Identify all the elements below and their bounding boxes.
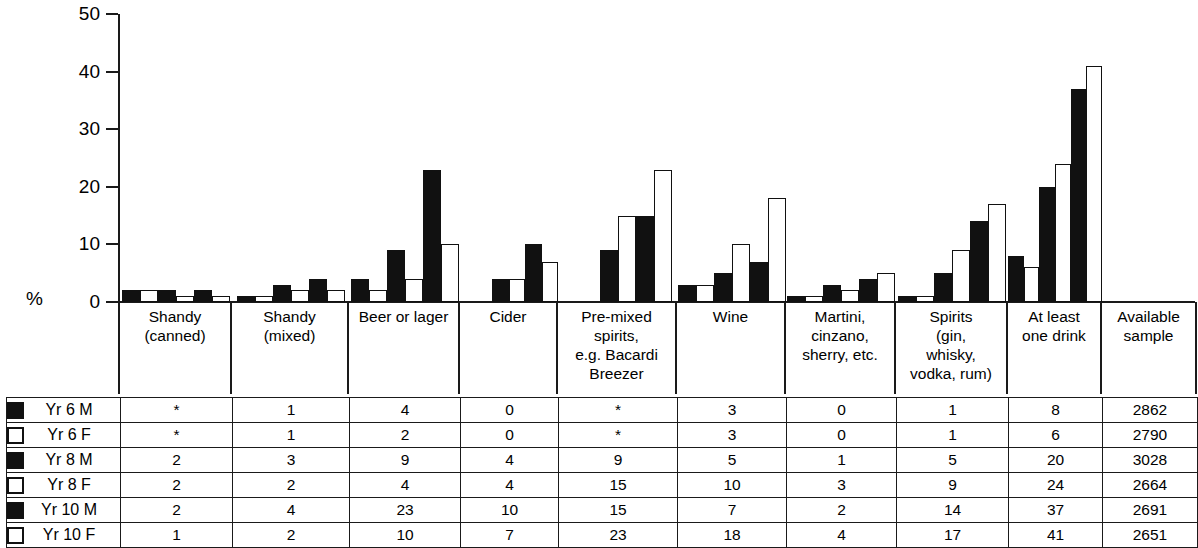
table-cell: 4 <box>787 523 897 548</box>
bar <box>387 250 405 302</box>
table-cell: 9 <box>559 448 678 473</box>
table-cell: 2 <box>121 498 233 523</box>
bar <box>970 221 988 302</box>
bar <box>696 285 714 302</box>
legend-series-label: Yr 8 F <box>24 474 120 496</box>
table-cell: 23 <box>559 523 678 548</box>
legend-swatch-icon <box>7 402 24 419</box>
bar <box>600 250 618 302</box>
bar <box>122 290 140 302</box>
bar <box>492 279 508 302</box>
category-label-cell: Martini,cinzano,sherry, etc. <box>786 302 896 394</box>
category-label-line: Beer or lager <box>359 307 449 326</box>
table-row: Yr 6 M*140*30182862 <box>7 398 1198 423</box>
table-cell: 0 <box>461 398 559 423</box>
table-cell: 1 <box>897 398 1009 423</box>
table-cell: 8 <box>1009 398 1103 423</box>
bar <box>351 279 369 302</box>
table-cell: 2 <box>233 473 350 498</box>
bar-group <box>786 14 896 302</box>
table-row: Yr 8 M23949515203028 <box>7 448 1198 473</box>
bar <box>369 290 387 302</box>
category-label-cell: Availablesample <box>1102 302 1197 394</box>
bar <box>618 216 636 302</box>
table-row: Yr 10 F121072318417412651 <box>7 523 1198 548</box>
table-cell: 10 <box>350 523 461 548</box>
table-cell: 5 <box>678 448 787 473</box>
table-cell: 9 <box>897 473 1009 498</box>
legend-series-label: Yr 6 M <box>24 399 120 421</box>
table-cell: 4 <box>233 498 350 523</box>
table-cell: 2 <box>233 523 350 548</box>
bar <box>1086 66 1102 302</box>
table-cell: 3 <box>787 473 897 498</box>
category-label-line: one drink <box>1022 326 1086 345</box>
data-table: Yr 6 M*140*30182862Yr 6 F*120*30162790Yr… <box>6 397 1198 548</box>
legend-swatch-icon <box>7 527 24 544</box>
category-label-line: Breezer <box>589 364 643 383</box>
category-label-line: Martini, <box>815 307 866 326</box>
bar-groups <box>120 14 1195 302</box>
bar <box>441 244 459 302</box>
legend-swatch-icon <box>7 502 24 519</box>
table-cell: * <box>121 423 233 448</box>
table-cell: 1 <box>897 423 1009 448</box>
category-label-cell: Shandy(canned) <box>120 302 232 394</box>
table-cell: 2 <box>121 448 233 473</box>
bar <box>1039 187 1055 302</box>
bar <box>291 290 309 302</box>
bar <box>158 290 176 302</box>
table-cell: 1 <box>233 423 350 448</box>
bar <box>988 204 1006 302</box>
category-label-line: spirits, <box>594 326 639 345</box>
table-cell: 17 <box>897 523 1009 548</box>
bar <box>877 273 895 302</box>
bar-group <box>896 14 1008 302</box>
category-label-cell: Wine <box>677 302 786 394</box>
table-cell: 14 <box>897 498 1009 523</box>
legend-cell: Yr 8 M <box>7 448 121 473</box>
category-label-cell: Beer or lager <box>349 302 460 394</box>
category-label-line: Spirits <box>929 307 972 326</box>
table-cell: 10 <box>461 498 559 523</box>
data-table-wrap: Yr 6 M*140*30182862Yr 6 F*120*30162790Yr… <box>6 397 1192 542</box>
table-cell: 41 <box>1009 523 1103 548</box>
bar <box>327 290 345 302</box>
legend-series-label: Yr 10 F <box>24 524 120 546</box>
table-cell: 6 <box>1009 423 1103 448</box>
category-label-line: cinzano, <box>811 326 869 345</box>
legend-cell: Yr 8 F <box>7 473 121 498</box>
category-label-cell: Cider <box>460 302 558 394</box>
category-label-line: Cider <box>489 307 526 326</box>
y-tick-mark <box>106 301 118 303</box>
table-cell: 10 <box>678 473 787 498</box>
table-cell: 15 <box>559 473 678 498</box>
category-label-line: (mixed) <box>264 326 316 345</box>
bar <box>1008 256 1024 302</box>
bar <box>678 285 696 302</box>
bar <box>859 279 877 302</box>
legend-cell: Yr 10 F <box>7 523 121 548</box>
table-cell: 4 <box>350 398 461 423</box>
table-cell: 1 <box>233 398 350 423</box>
category-label-line: Shandy <box>263 307 316 326</box>
category-label-line: sample <box>1124 326 1174 345</box>
bar <box>525 244 541 302</box>
category-label-line: whisky, <box>926 345 976 364</box>
table-cell: 20 <box>1009 448 1103 473</box>
bar <box>1055 164 1071 302</box>
table-row: Yr 8 F2244151039242664 <box>7 473 1198 498</box>
legend-series-label: Yr 6 F <box>24 424 120 446</box>
category-label-line: Pre-mixed <box>581 307 652 326</box>
table-cell: 7 <box>461 523 559 548</box>
bar <box>140 290 158 302</box>
table-cell: 2691 <box>1103 498 1198 523</box>
category-header-row: Shandy(canned)Shandy(mixed)Beer or lager… <box>118 302 1197 394</box>
bar <box>309 279 327 302</box>
table-cell: 37 <box>1009 498 1103 523</box>
table-cell: 5 <box>897 448 1009 473</box>
legend-series-label: Yr 10 M <box>24 499 120 521</box>
table-cell: 0 <box>787 423 897 448</box>
table-cell: * <box>121 398 233 423</box>
table-cell: 1 <box>121 523 233 548</box>
